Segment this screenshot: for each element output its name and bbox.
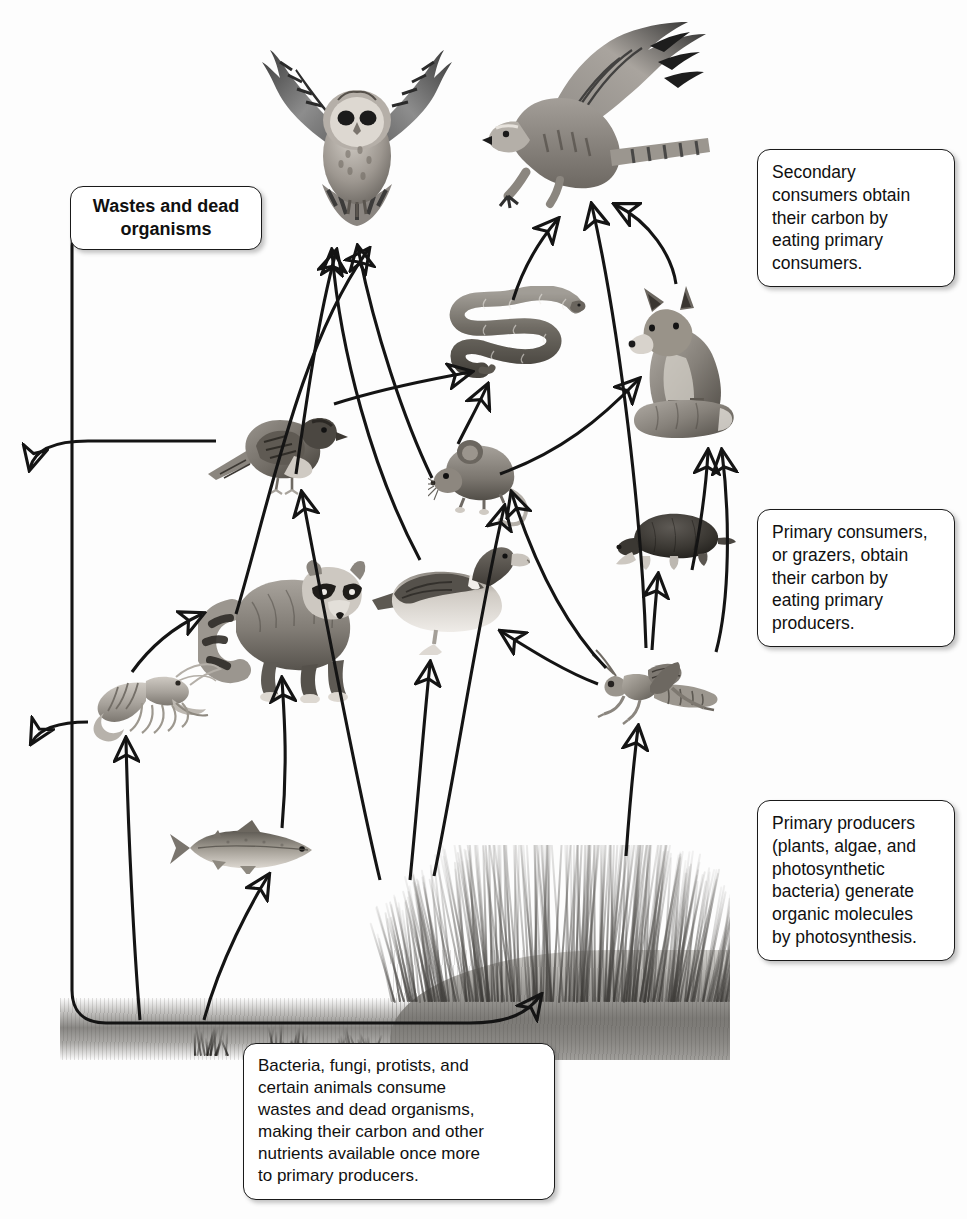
callout-wastes-and-dead-organisms: Wastes and dead organisms xyxy=(70,186,262,250)
owl-icon xyxy=(262,26,452,241)
grass-blade xyxy=(194,1032,196,1056)
arrow-grasshopper-to-mole xyxy=(652,576,658,650)
arrow-sparrow-to-wastes xyxy=(30,441,216,468)
callout-primary-producers: Primary producers (plants, algae, and ph… xyxy=(757,800,955,961)
food-web-figure: Wastes and dead organisms Secondary cons… xyxy=(0,0,967,1219)
callout-decomposers: Bacteria, fungi, protists, and certain a… xyxy=(243,1043,555,1200)
raccoon-icon xyxy=(198,558,368,703)
habitat-ground xyxy=(60,845,730,1060)
grass-blade xyxy=(210,1031,213,1056)
callout-secondary-consumers: Secondary consumers obtain their carbon … xyxy=(757,149,955,287)
fox-icon xyxy=(624,280,742,445)
mouse-icon xyxy=(428,432,543,527)
mole-icon xyxy=(608,500,738,572)
grasshopper-icon xyxy=(592,648,722,726)
grass-clump-icon xyxy=(390,845,730,1002)
snake-icon xyxy=(446,286,586,384)
duck-icon xyxy=(372,530,532,655)
hawk-icon xyxy=(482,16,717,226)
callout-wastes-text: Wastes and dead organisms xyxy=(93,195,239,240)
sparrow-icon xyxy=(208,404,348,496)
fish-icon xyxy=(168,818,318,874)
arrow-grass-to-grasshopper xyxy=(626,728,638,856)
crayfish-icon xyxy=(72,655,222,750)
arrow-mouse-to-owl xyxy=(358,248,432,478)
grass-tuft-icon xyxy=(190,1022,234,1056)
callout-primary-consumers: Primary consumers, or grazers, obtain th… xyxy=(757,509,955,647)
